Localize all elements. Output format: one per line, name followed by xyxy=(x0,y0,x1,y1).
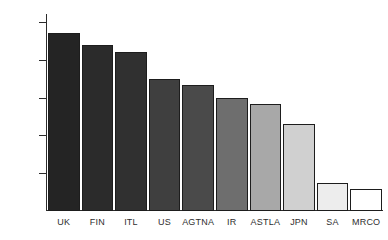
bar[interactable] xyxy=(82,45,114,211)
bar[interactable] xyxy=(350,189,382,211)
bar[interactable] xyxy=(283,124,315,211)
bar-group[interactable]: ITL xyxy=(115,52,147,211)
y-axis-tick xyxy=(39,60,46,61)
x-axis-category-label: UK xyxy=(57,217,70,227)
bar-group[interactable]: IR xyxy=(216,98,248,211)
bar-group[interactable]: US xyxy=(149,79,181,211)
y-axis: 500400300200100 xyxy=(0,0,48,240)
x-axis-category-label: ITL xyxy=(124,217,138,227)
bar-group[interactable]: JPN xyxy=(283,124,315,211)
bar-chart: 500400300200100 UKFINITLUSAGTNAIRASTLAJP… xyxy=(0,0,388,240)
y-axis-tick xyxy=(39,173,46,174)
x-axis-category-label: US xyxy=(158,217,171,227)
x-axis-category-label: SA xyxy=(326,217,338,227)
bar[interactable] xyxy=(115,52,147,211)
bar-group[interactable]: AGTNA xyxy=(182,85,214,211)
bar[interactable] xyxy=(149,79,181,211)
bar-group[interactable]: SA xyxy=(317,183,349,211)
y-axis-tick xyxy=(39,22,46,23)
plot-area: UKFINITLUSAGTNAIRASTLAJPNSAMRCO xyxy=(47,0,388,240)
bar-group[interactable]: ASTLA xyxy=(250,104,282,211)
bar-group[interactable]: FIN xyxy=(82,45,114,211)
bar[interactable] xyxy=(317,183,349,211)
bar-group[interactable]: MRCO xyxy=(350,189,382,211)
y-axis-tick xyxy=(39,135,46,136)
x-axis-category-label: JPN xyxy=(290,217,308,227)
bar[interactable] xyxy=(182,85,214,211)
bar[interactable] xyxy=(250,104,282,211)
x-axis-category-label: AGTNA xyxy=(182,217,214,227)
x-axis-category-label: MRCO xyxy=(352,217,380,227)
x-axis-category-label: IR xyxy=(227,217,236,227)
bar[interactable] xyxy=(216,98,248,211)
x-axis-category-label: FIN xyxy=(90,217,105,227)
bar[interactable] xyxy=(48,33,80,211)
y-axis-tick xyxy=(39,98,46,99)
bar-group[interactable]: UK xyxy=(48,33,80,211)
x-axis-category-label: ASTLA xyxy=(251,217,281,227)
